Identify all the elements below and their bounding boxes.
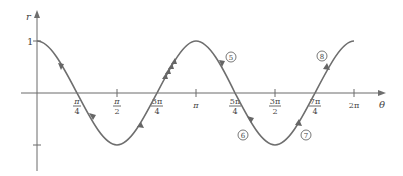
svg-text:4: 4 — [74, 107, 79, 116]
svg-text:7: 7 — [304, 132, 308, 140]
svg-text:2: 2 — [272, 107, 277, 116]
svg-text:3π: 3π — [270, 97, 280, 106]
annotation-6: 6 — [238, 130, 248, 140]
theta-axis-arrow-icon — [378, 90, 386, 96]
annotation-8: 8 — [317, 51, 327, 61]
y-tick-label-1: 1 — [27, 36, 33, 47]
polar-cos2theta-cartesian-graph: r θ 1 π 4 π 2 3π 4 π 5π 4 3π 2 7π 4 — [0, 0, 403, 176]
svg-text:π: π — [113, 97, 120, 106]
arrow-icon — [247, 116, 254, 123]
annotation-7: 7 — [301, 130, 311, 140]
x-tick-label-2pi: 2π — [349, 101, 359, 110]
x-tick-label-3pi-over-2: 3π 2 — [269, 97, 281, 116]
svg-text:8: 8 — [320, 53, 324, 61]
svg-text:2: 2 — [114, 107, 119, 116]
theta-axis-label: θ — [379, 99, 385, 110]
x-tick-label-pi-over-2: π 2 — [113, 97, 121, 116]
svg-text:6: 6 — [241, 132, 246, 140]
r-axis-arrow-icon — [34, 10, 40, 18]
svg-text:4: 4 — [154, 107, 159, 116]
r-axis-label: r — [26, 11, 32, 22]
x-tick-label-pi: π — [192, 101, 199, 110]
annotation-5: 5 — [226, 52, 236, 62]
svg-text:4: 4 — [232, 107, 237, 116]
svg-text:5: 5 — [229, 54, 233, 62]
svg-text:4: 4 — [312, 107, 317, 116]
arrow-icon — [137, 122, 144, 128]
